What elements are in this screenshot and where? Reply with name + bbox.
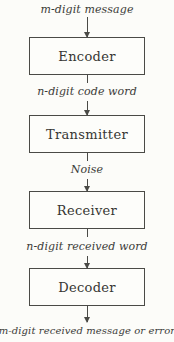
transmitter-box: Transmitter — [29, 115, 145, 153]
arrow-down-icon — [87, 179, 88, 191]
decoder-box: Decoder — [29, 268, 145, 306]
connector-line — [87, 229, 88, 237]
communication-channel-diagram: m-digit message Encoder n-digit code wor… — [0, 0, 174, 342]
arrow-down-icon — [87, 17, 88, 37]
connector-line — [87, 153, 88, 161]
arrow-down-icon — [87, 306, 88, 322]
label-m-digit-received-message-or-error: m-digit received message or error — [0, 324, 174, 338]
label-m-digit-message: m-digit message — [40, 3, 133, 17]
label-n-digit-code-word: n-digit code word — [37, 85, 137, 99]
label-n-digit-received-word: n-digit received word — [26, 240, 148, 254]
arrow-down-icon — [87, 256, 88, 268]
receiver-box: Receiver — [29, 191, 145, 229]
encoder-box: Encoder — [29, 37, 145, 75]
connector-line — [87, 75, 88, 83]
encoder-box-label: Encoder — [58, 49, 115, 64]
arrow-down-icon — [87, 101, 88, 115]
transmitter-box-label: Transmitter — [46, 127, 128, 142]
receiver-box-label: Receiver — [57, 203, 117, 218]
label-noise: Noise — [71, 163, 103, 177]
decoder-box-label: Decoder — [58, 280, 116, 295]
